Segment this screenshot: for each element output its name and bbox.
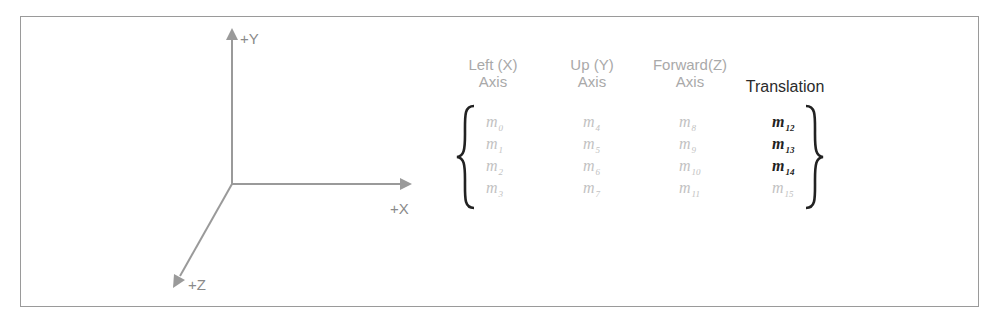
matrix-cell-m2: m2 xyxy=(486,158,503,180)
header-line2: Translation xyxy=(735,78,835,95)
column-header-left-x: Left (X) Axis xyxy=(448,56,538,90)
matrix-cell-m7: m7 xyxy=(583,180,600,202)
header-line2: Axis xyxy=(640,73,740,90)
cell-subscript: 5 xyxy=(596,145,601,155)
column-header-forward-z: Forward(Z) Axis xyxy=(640,56,740,90)
header-line2: Axis xyxy=(448,73,538,90)
cell-subscript: 14 xyxy=(785,167,794,177)
left-brace-icon xyxy=(454,104,478,210)
y-axis-label: +Y xyxy=(240,30,259,47)
cell-subscript: 13 xyxy=(785,145,794,155)
cell-subscript: 15 xyxy=(785,189,794,199)
cell-symbol: m xyxy=(486,179,498,196)
header-line1: Left (X) xyxy=(448,56,538,73)
x-axis-label: +X xyxy=(390,200,409,217)
matrix-cell-m14: m14 xyxy=(772,158,794,180)
header-line2: Axis xyxy=(552,73,632,90)
cell-subscript: 1 xyxy=(499,145,504,155)
cell-symbol: m xyxy=(772,135,784,152)
header-line1: Forward(Z) xyxy=(640,56,740,73)
cell-subscript: 10 xyxy=(692,167,701,177)
matrix-cell-m15: m15 xyxy=(772,180,794,202)
header-line1: Up (Y) xyxy=(552,56,632,73)
cell-subscript: 6 xyxy=(596,167,601,177)
cell-symbol: m xyxy=(772,157,784,174)
cell-symbol: m xyxy=(772,179,784,196)
matrix-cell-m0: m0 xyxy=(486,114,503,136)
matrix-cell-m1: m1 xyxy=(486,136,503,158)
cell-subscript: 0 xyxy=(499,123,504,133)
cell-symbol: m xyxy=(486,135,498,152)
matrix-cell-m13: m13 xyxy=(772,136,794,158)
cell-symbol: m xyxy=(583,179,595,196)
z-arrow-icon xyxy=(173,274,185,288)
z-axis-label: +Z xyxy=(188,276,206,293)
cell-symbol: m xyxy=(583,113,595,130)
cell-symbol: m xyxy=(486,157,498,174)
matrix-cell-m3: m3 xyxy=(486,180,503,202)
y-arrow-icon xyxy=(226,28,238,40)
matrix-cell-m11: m11 xyxy=(679,180,700,202)
cell-symbol: m xyxy=(583,135,595,152)
matrix-cell-m5: m5 xyxy=(583,136,600,158)
matrix-cell-m12: m12 xyxy=(772,114,794,136)
cell-subscript: 12 xyxy=(785,123,794,133)
cell-symbol: m xyxy=(772,113,784,130)
cell-subscript: 9 xyxy=(692,145,697,155)
cell-symbol: m xyxy=(679,135,691,152)
cell-symbol: m xyxy=(679,113,691,130)
column-header-up-y: Up (Y) Axis xyxy=(552,56,632,90)
cell-subscript: 8 xyxy=(692,123,697,133)
right-brace-icon xyxy=(802,104,826,210)
cell-symbol: m xyxy=(486,113,498,130)
cell-subscript: 11 xyxy=(692,189,700,199)
matrix-cell-m10: m10 xyxy=(679,158,701,180)
column-header-translation: Translation xyxy=(735,78,835,95)
cell-subscript: 7 xyxy=(596,189,601,199)
z-axis-line xyxy=(180,184,232,276)
matrix-cell-m4: m4 xyxy=(583,114,600,136)
cell-symbol: m xyxy=(583,157,595,174)
cell-symbol: m xyxy=(679,157,691,174)
cell-subscript: 4 xyxy=(596,123,601,133)
cell-subscript: 2 xyxy=(499,167,504,177)
cell-subscript: 3 xyxy=(499,189,504,199)
cell-symbol: m xyxy=(679,179,691,196)
x-arrow-icon xyxy=(400,178,412,190)
matrix-cell-m9: m9 xyxy=(679,136,696,158)
matrix-cell-m6: m6 xyxy=(583,158,600,180)
matrix-cell-m8: m8 xyxy=(679,114,696,136)
